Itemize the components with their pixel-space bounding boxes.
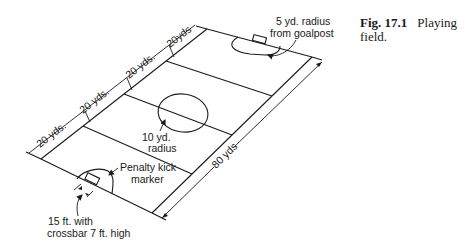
dim-label-2: 20 yds.	[77, 85, 111, 115]
bottom-goal-arc	[77, 169, 113, 194]
length-label: 80 yds	[209, 140, 239, 170]
figure-title-1: Playing	[417, 15, 457, 30]
center-line	[124, 94, 232, 135]
goal-radius-label-2: from goalpost	[270, 27, 334, 39]
dim-label-4: 20yds	[164, 23, 193, 50]
yard-lines	[83, 61, 272, 174]
goal-size-leader	[77, 195, 82, 216]
top-goalpost	[252, 35, 266, 44]
penalty-label-2: marker	[131, 173, 164, 185]
penalty-leader	[109, 168, 118, 175]
center-radius-label-2: radius	[148, 142, 177, 154]
goal-size-label-2: crossbar 7 ft. high	[47, 227, 131, 239]
bottom-goal-area	[77, 169, 113, 194]
arrow-top-icon	[316, 62, 322, 67]
length-dimension	[162, 62, 322, 218]
penalty-label-1: Penalty kick	[120, 161, 177, 173]
figure-title-2: field.	[360, 29, 387, 44]
bottom-goalpost	[85, 173, 100, 185]
center-circle	[156, 91, 211, 136]
dim-label-3: 20 yds.	[123, 50, 157, 80]
goal-width-marks	[74, 184, 93, 197]
goal-radius-leader	[268, 40, 296, 56]
goal-radius-label-1: 5 yd. radius	[276, 15, 330, 27]
playing-field-diagram: 20 yds. 20 yds. 20 yds. 20yds 80 yds 5 y…	[0, 0, 470, 250]
figure-number: Fig. 17.1	[360, 15, 407, 30]
dim-label-bottom: 20 yds.	[34, 119, 68, 149]
center-radius-leader	[160, 120, 165, 131]
top-line-extension	[312, 57, 322, 60]
arrow-bottom-icon	[162, 213, 168, 218]
yard-line-20	[166, 61, 272, 96]
goal-size-label-1: 15 ft. with	[48, 215, 93, 227]
figure-caption: Fig. 17.1 Playing	[360, 13, 458, 30]
